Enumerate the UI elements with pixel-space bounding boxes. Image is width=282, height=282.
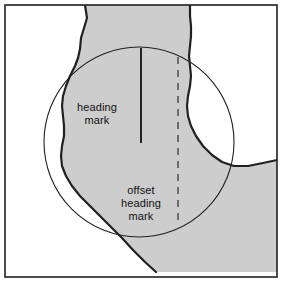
offset-heading-mark-label: offset heading mark — [110, 184, 172, 223]
river-channel-heading-mark-diagram: heading mark offset heading mark — [0, 0, 282, 282]
heading-mark-label: heading mark — [66, 101, 128, 127]
diagram-canvas — [0, 0, 282, 282]
